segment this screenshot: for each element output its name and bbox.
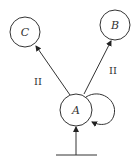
node-c-label: C (21, 26, 30, 39)
node-b: B (100, 10, 130, 40)
node-a: A (60, 94, 92, 126)
edge-a-to-b-label: II (109, 65, 117, 76)
edge-a-to-c (36, 46, 70, 95)
node-c: C (10, 17, 40, 47)
edge-a-to-c-label: II (34, 76, 42, 87)
node-b-label: B (110, 19, 119, 32)
edge-a-to-b (84, 41, 111, 94)
node-a-label: A (71, 104, 80, 117)
state-diagram: C B A II II (0, 0, 140, 168)
